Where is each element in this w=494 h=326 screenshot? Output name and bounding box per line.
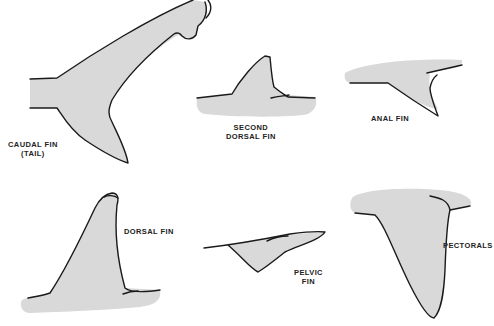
anal-fin-label-line1: ANAL FIN: [371, 114, 409, 123]
second-dorsal-fin-label: SECOND DORSAL FIN: [226, 123, 276, 141]
caudal-fin-shape: [30, 0, 211, 163]
anal-fin-shape: [345, 60, 463, 116]
second-dorsal-fin-label-line2: DORSAL FIN: [226, 132, 276, 141]
second-dorsal-fin-label-line1: SECOND: [226, 123, 276, 132]
dorsal-fin-label-line1: DORSAL FIN: [124, 227, 174, 236]
caudal-fin-label-line1: CAUDAL FIN: [8, 140, 58, 149]
dorsal-fin-shape: [21, 193, 160, 313]
pectoral-fin-label-line1: PECTORALS: [443, 241, 493, 250]
shark-fins-diagram: CAUDAL FIN (TAIL) SECOND DORSAL FIN ANAL…: [0, 0, 494, 326]
anal-fin-label: ANAL FIN: [371, 114, 409, 123]
pelvic-fin-label-line1: PELVIC: [294, 268, 323, 277]
caudal-fin-label: CAUDAL FIN (TAIL): [8, 140, 58, 158]
fins-illustration: [0, 0, 494, 326]
pelvic-fin-label: PELVIC FIN: [294, 268, 323, 286]
pectoral-fin-label: PECTORALS: [443, 241, 493, 250]
pelvic-fin-label-line2: FIN: [294, 277, 323, 286]
dorsal-fin-label: DORSAL FIN: [124, 227, 174, 236]
pelvic-fin-shape: [204, 232, 325, 272]
caudal-fin-label-line2: (TAIL): [8, 149, 58, 158]
pectoral-fin-shape: [350, 189, 471, 318]
second-dorsal-fin-shape: [197, 56, 317, 117]
